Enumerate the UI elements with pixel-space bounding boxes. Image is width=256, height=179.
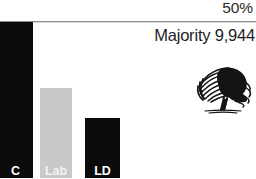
bar-conservative: C [0, 22, 33, 178]
bar-label-conservative: C [11, 165, 20, 179]
majority-annotation: Majority 9,944 [154, 26, 255, 45]
oak-tree-icon [191, 61, 253, 117]
election-bar-chart: 50% Majority 9,944 C Lab LD [0, 0, 256, 178]
bar-libdem: LD [85, 118, 120, 178]
bar-labour: Lab [40, 88, 72, 178]
bar-label-labour: Lab [45, 165, 67, 179]
bar-label-libdem: LD [94, 165, 111, 179]
plot-area: C Lab LD [0, 0, 130, 178]
axis-threshold-label: 50% [222, 0, 253, 17]
